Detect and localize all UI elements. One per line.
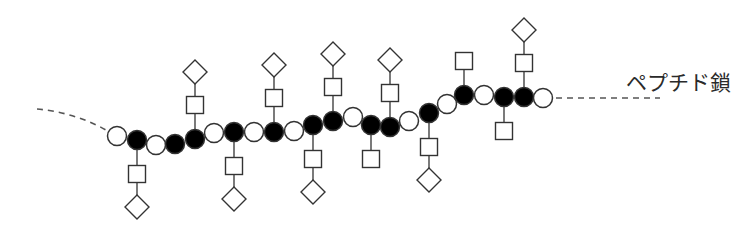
peptide-chain-diagram <box>0 0 743 234</box>
sugar-diamond-icon <box>378 48 402 72</box>
peptide-chain-label: ペプチド鎖 <box>626 66 731 96</box>
open-residue-circle <box>285 122 304 141</box>
sugar-diamond-icon <box>262 53 286 77</box>
sugar-square-icon <box>305 151 322 168</box>
open-residue-circle <box>147 136 166 155</box>
filled-residue-circle <box>381 118 400 137</box>
sugar-square-icon <box>516 55 533 72</box>
sugar-square-icon <box>421 139 438 156</box>
open-residue-circle <box>344 108 363 127</box>
sugar-square-icon <box>266 90 283 107</box>
filled-residue-circle <box>324 112 343 131</box>
filled-residue-circle <box>265 123 284 142</box>
filled-residue-circle <box>455 86 474 105</box>
open-residue-circle <box>108 127 127 146</box>
sugar-diamond-icon <box>321 42 345 66</box>
sugar-square-icon <box>382 85 399 102</box>
open-residue-circle <box>534 89 553 108</box>
sugar-square-icon <box>226 158 243 175</box>
dashed-chain-left <box>37 109 106 130</box>
sugar-diamond-icon <box>183 60 207 84</box>
filled-residue-circle <box>420 104 439 123</box>
filled-residue-circle <box>128 131 147 150</box>
open-residue-circle <box>438 95 457 114</box>
sugar-square-icon <box>187 97 204 114</box>
sugar-diamond-icon <box>222 187 246 211</box>
open-residue-circle <box>205 124 224 143</box>
open-residue-circle <box>475 86 494 105</box>
sugar-diamond-icon <box>301 180 325 204</box>
sugar-square-icon <box>129 166 146 183</box>
filled-residue-circle <box>515 88 534 107</box>
sugar-diamond-icon <box>512 18 536 42</box>
sugar-square-icon <box>456 53 473 70</box>
sugar-diamond-icon <box>125 195 149 219</box>
filled-residue-circle <box>495 88 514 107</box>
sugar-square-icon <box>325 79 342 96</box>
filled-residue-circle <box>362 116 381 135</box>
open-residue-circle <box>245 123 264 142</box>
filled-residue-circle <box>304 116 323 135</box>
filled-residue-circle <box>186 130 205 149</box>
sugar-diamond-icon <box>417 168 441 192</box>
filled-residue-circle <box>166 135 185 154</box>
open-residue-circle <box>400 112 419 131</box>
sugar-square-icon <box>363 151 380 168</box>
sugar-square-icon <box>496 123 513 140</box>
filled-residue-circle <box>225 123 244 142</box>
